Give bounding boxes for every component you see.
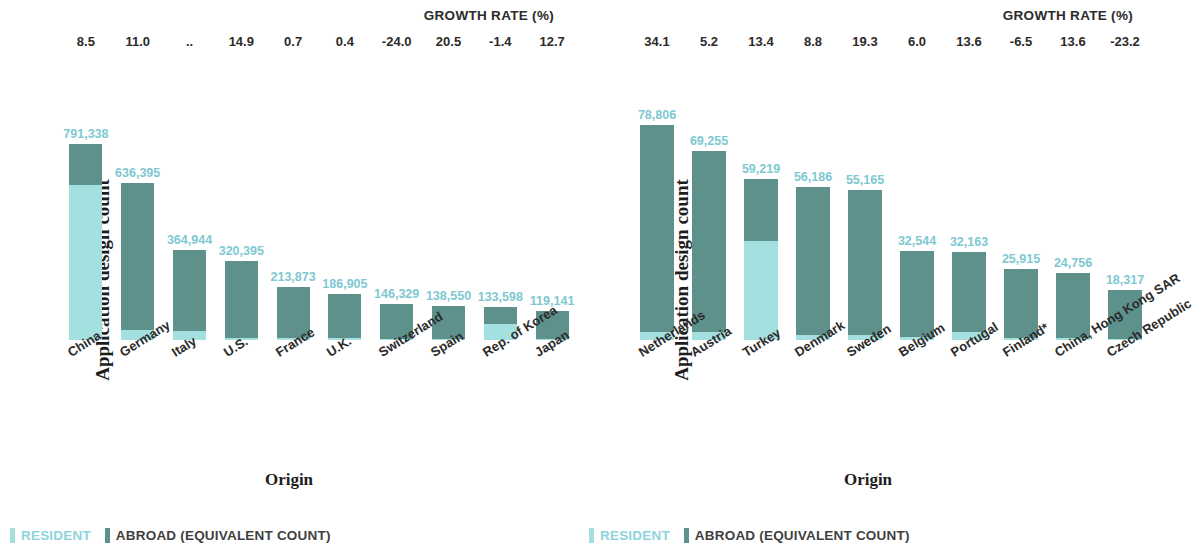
bar-value-label: 138,550 <box>426 289 471 303</box>
chart-panel-left: GROWTH RATE (%) 8.511.0..14.90.70.4-24.0… <box>0 0 578 560</box>
bar-value-label: 364,944 <box>167 233 212 247</box>
bar-segment-abroad <box>796 187 830 335</box>
legend-swatch-abroad-icon <box>684 528 689 543</box>
bar-value-label: 59,219 <box>742 162 780 176</box>
bar-netherlands[interactable]: 78,806 <box>640 125 674 340</box>
stacked-bar: 59,219 <box>744 179 778 340</box>
legend-label-resident: RESIDENT <box>600 528 670 543</box>
legend-label-abroad: ABROAD (EQUIVALENT COUNT) <box>695 528 910 543</box>
growth-rate-header-left: GROWTH RATE (%) <box>424 8 554 23</box>
legend-left: RESIDENT ABROAD (EQUIVALENT COUNT) <box>10 528 331 543</box>
x-tick-labels-left: ChinaGermanyItalyU.S.FranceU.K.Switzerla… <box>0 343 578 463</box>
legend-swatch-abroad-icon <box>105 528 110 543</box>
stacked-bar: 636,395 <box>121 183 154 341</box>
bar-value-label: 186,905 <box>322 277 367 291</box>
legend-label-abroad: ABROAD (EQUIVALENT COUNT) <box>116 528 331 543</box>
growth-rate-row-left: 8.511.0..14.90.70.4-24.020.5-1.412.7 <box>0 34 578 54</box>
legend-swatch-resident-icon <box>589 528 594 543</box>
bar-china[interactable]: 791,338 <box>69 144 102 340</box>
bar-turkey[interactable]: 59,219 <box>744 179 778 340</box>
bar-germany[interactable]: 636,395 <box>121 183 154 341</box>
bar-value-label: 78,806 <box>638 108 676 122</box>
bar-sweden[interactable]: 55,165 <box>848 190 882 340</box>
legend-right: RESIDENT ABROAD (EQUIVALENT COUNT) <box>589 528 910 543</box>
stacked-bar: 56,186 <box>796 187 830 340</box>
bar-segment-abroad <box>952 252 986 332</box>
plot-area-right: 78,80669,25559,21956,18655,16532,54432,1… <box>579 60 1157 340</box>
bar-denmark[interactable]: 56,186 <box>796 187 830 340</box>
bar-value-label: 25,915 <box>1002 252 1040 266</box>
bar-segment-abroad <box>900 251 934 337</box>
bar-segment-abroad <box>640 125 674 331</box>
bar-segment-abroad <box>484 307 517 324</box>
bar-segment-abroad <box>121 183 154 331</box>
legend-swatch-resident-icon <box>10 528 15 543</box>
stacked-bar: 55,165 <box>848 190 882 340</box>
growth-rate-value: -23.2 <box>1085 34 1165 49</box>
stacked-bar: 78,806 <box>640 125 674 340</box>
stacked-bar: 791,338 <box>69 144 102 340</box>
bar-value-label: 32,544 <box>898 234 936 248</box>
stacked-bar: 364,944 <box>173 250 206 340</box>
bar-segment-abroad <box>744 179 778 241</box>
bar-value-label: 56,186 <box>794 170 832 184</box>
bar-value-label: 55,165 <box>846 173 884 187</box>
plot-area-left: 791,338636,395364,944320,395213,873186,9… <box>0 60 578 340</box>
chart-panel-right: GROWTH RATE (%) 34.15.213.48.819.36.013.… <box>579 0 1157 560</box>
bar-segment-resident <box>69 185 102 340</box>
bar-value-label: 791,338 <box>63 127 108 141</box>
bar-value-label: 69,255 <box>690 134 728 148</box>
legend-item-resident: RESIDENT <box>589 528 670 543</box>
bar-value-label: 133,598 <box>478 290 523 304</box>
bar-value-label: 146,329 <box>374 287 419 301</box>
bar-segment-abroad <box>173 250 206 331</box>
bar-segment-abroad <box>848 190 882 335</box>
legend-item-abroad: ABROAD (EQUIVALENT COUNT) <box>105 528 331 543</box>
bar-value-label: 24,756 <box>1054 256 1092 270</box>
bar-segment-abroad <box>225 261 258 338</box>
legend-item-abroad: ABROAD (EQUIVALENT COUNT) <box>684 528 910 543</box>
bar-segment-abroad <box>692 151 726 331</box>
bar-italy[interactable]: 364,944 <box>173 250 206 340</box>
bar-value-label: 213,873 <box>271 270 316 284</box>
stacked-bar: 320,395 <box>225 261 258 340</box>
bar-value-label: 320,395 <box>219 244 264 258</box>
x-axis-title-right: Origin <box>579 470 1157 490</box>
growth-rate-header-right: GROWTH RATE (%) <box>1003 8 1133 23</box>
growth-rate-row-right: 34.15.213.48.819.36.013.6-6.513.6-23.2 <box>579 34 1157 54</box>
legend-item-resident: RESIDENT <box>10 528 91 543</box>
bar-segment-abroad <box>328 294 361 339</box>
bar-value-label: 32,163 <box>950 235 988 249</box>
x-tick-labels-right: NetherlandsAustriaTurkeyDenmarkSwedenBel… <box>579 343 1157 463</box>
x-axis-title-left: Origin <box>0 470 578 490</box>
bar-segment-abroad <box>69 144 102 185</box>
bar-u-s[interactable]: 320,395 <box>225 261 258 340</box>
legend-label-resident: RESIDENT <box>21 528 91 543</box>
bar-value-label: 18,317 <box>1106 273 1144 287</box>
bar-value-label: 636,395 <box>115 166 160 180</box>
